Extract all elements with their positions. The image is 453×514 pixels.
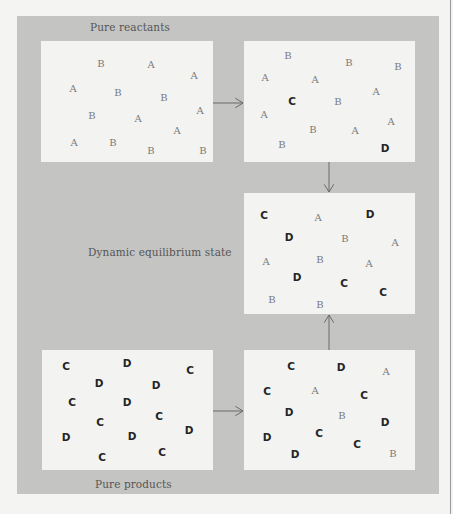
molecule-d: D bbox=[291, 449, 300, 460]
molecule-b: B bbox=[147, 146, 154, 156]
molecule-d: D bbox=[62, 432, 71, 443]
label-dynamic-equilibrium: Dynamic equilibrium state bbox=[88, 246, 232, 258]
molecule-b: B bbox=[309, 125, 316, 135]
molecule-a: A bbox=[173, 126, 180, 136]
molecule-c: C bbox=[360, 390, 368, 401]
molecule-a: A bbox=[196, 106, 203, 116]
molecule-d: D bbox=[185, 425, 194, 436]
molecule-c: C bbox=[340, 278, 348, 289]
molecule-c: C bbox=[62, 361, 70, 372]
molecule-c: C bbox=[186, 365, 194, 376]
molecule-a: A bbox=[311, 386, 318, 396]
label-pure-reactants: Pure reactants bbox=[90, 21, 170, 33]
molecule-a: A bbox=[190, 71, 197, 81]
molecule-d: D bbox=[381, 417, 390, 428]
molecule-d: D bbox=[366, 209, 375, 220]
molecule-d: D bbox=[263, 432, 272, 443]
molecule-c: C bbox=[288, 96, 296, 107]
box-early-reaction: BBBAAACBABAABD bbox=[244, 41, 415, 162]
molecule-c: C bbox=[68, 397, 76, 408]
molecule-c: C bbox=[315, 428, 323, 439]
molecule-b: B bbox=[284, 51, 291, 61]
molecule-a: A bbox=[351, 126, 358, 136]
molecule-d: D bbox=[123, 358, 132, 369]
molecule-b: B bbox=[316, 255, 323, 265]
molecule-c: C bbox=[379, 287, 387, 298]
molecule-d: D bbox=[285, 232, 294, 243]
molecule-d: D bbox=[337, 362, 346, 373]
molecule-d: D bbox=[95, 378, 104, 389]
molecule-a: A bbox=[391, 238, 398, 248]
molecule-a: A bbox=[387, 117, 394, 127]
molecule-c: C bbox=[260, 210, 268, 221]
molecule-d: D bbox=[128, 431, 137, 442]
molecule-d: D bbox=[381, 143, 390, 154]
molecule-a: A bbox=[70, 138, 77, 148]
molecule-a: A bbox=[311, 75, 318, 85]
molecule-a: A bbox=[260, 110, 267, 120]
box-dynamic-equilibrium: CADDBAABADCCBB bbox=[244, 193, 415, 314]
label-pure-products: Pure products bbox=[95, 478, 172, 490]
molecule-c: C bbox=[98, 452, 106, 463]
molecule-a: A bbox=[372, 87, 379, 97]
molecule-b: B bbox=[268, 295, 275, 305]
molecule-a: A bbox=[134, 114, 141, 124]
molecule-b: B bbox=[389, 449, 396, 459]
molecule-c: C bbox=[155, 411, 163, 422]
molecule-b: B bbox=[345, 58, 352, 68]
molecule-d: D bbox=[123, 397, 132, 408]
molecule-d: D bbox=[293, 272, 302, 283]
molecule-b: B bbox=[88, 111, 95, 121]
molecule-d: D bbox=[285, 407, 294, 418]
molecule-a: A bbox=[365, 259, 372, 269]
molecule-b: B bbox=[97, 59, 104, 69]
box-pure-reactants: BAAABBBAAAABBB bbox=[41, 41, 213, 162]
molecule-c: C bbox=[158, 447, 166, 458]
molecule-a: A bbox=[261, 73, 268, 83]
molecule-a: A bbox=[147, 60, 154, 70]
molecule-c: C bbox=[96, 417, 104, 428]
molecule-c: C bbox=[353, 439, 361, 450]
box-pure-products: CDCDDCDCCDDDCC bbox=[42, 350, 213, 470]
molecule-b: B bbox=[199, 146, 206, 156]
box-early-reverse-reaction: CDACACDBDCDCDB bbox=[244, 350, 415, 470]
molecule-c: C bbox=[287, 361, 295, 372]
molecule-b: B bbox=[114, 88, 121, 98]
molecule-c: C bbox=[263, 386, 271, 397]
molecule-b: B bbox=[160, 93, 167, 103]
molecule-d: D bbox=[152, 380, 161, 391]
molecule-b: B bbox=[394, 62, 401, 72]
molecule-b: B bbox=[109, 138, 116, 148]
molecule-b: B bbox=[316, 300, 323, 310]
molecule-a: A bbox=[262, 257, 269, 267]
page-edge-line bbox=[450, 0, 451, 514]
molecule-b: B bbox=[338, 411, 345, 421]
molecule-b: B bbox=[341, 234, 348, 244]
molecule-a: A bbox=[69, 84, 76, 94]
molecule-a: A bbox=[314, 213, 321, 223]
molecule-b: B bbox=[278, 140, 285, 150]
molecule-b: B bbox=[334, 97, 341, 107]
molecule-a: A bbox=[382, 367, 389, 377]
